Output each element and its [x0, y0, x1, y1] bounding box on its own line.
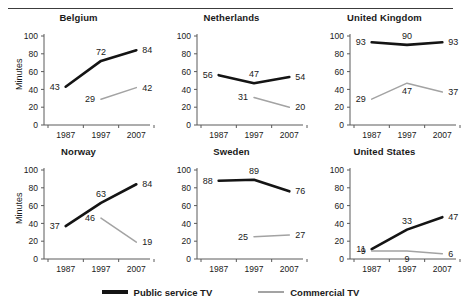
- svg-text:72: 72: [96, 47, 106, 57]
- panel-plot: 0204060801001987199720074372842942: [2, 12, 155, 146]
- svg-text:37: 37: [448, 87, 458, 97]
- svg-text:27: 27: [295, 230, 305, 240]
- svg-text:88: 88: [203, 176, 213, 186]
- svg-text:25: 25: [238, 232, 248, 242]
- svg-text:60: 60: [335, 201, 345, 211]
- svg-text:60: 60: [29, 67, 39, 77]
- svg-text:33: 33: [402, 216, 412, 226]
- chart-legend: Public service TV Commercial TV: [0, 282, 461, 302]
- svg-text:63: 63: [96, 189, 106, 199]
- svg-text:60: 60: [182, 67, 192, 77]
- svg-text:40: 40: [335, 219, 345, 229]
- svg-text:40: 40: [182, 219, 192, 229]
- svg-text:1997: 1997: [245, 130, 264, 140]
- svg-text:100: 100: [177, 31, 191, 41]
- svg-text:100: 100: [330, 31, 344, 41]
- chart-panel-netherlands: Netherlands02040608010019871997200756475…: [155, 12, 308, 146]
- svg-text:93: 93: [448, 37, 458, 47]
- svg-text:40: 40: [29, 219, 39, 229]
- svg-text:9: 9: [361, 246, 366, 256]
- svg-text:80: 80: [335, 49, 345, 59]
- legend-label-public: Public service TV: [134, 287, 213, 298]
- svg-text:0: 0: [339, 120, 344, 130]
- chart-panel-united-states: United States020406080100198719972007113…: [308, 146, 461, 280]
- svg-text:19: 19: [142, 237, 152, 247]
- svg-text:1997: 1997: [398, 130, 417, 140]
- chart-panel-sweden: Sweden0204060801001987199720078889762527: [155, 146, 308, 280]
- svg-text:60: 60: [335, 67, 345, 77]
- svg-text:0: 0: [33, 254, 38, 264]
- svg-text:31: 31: [238, 92, 248, 102]
- svg-text:54: 54: [295, 72, 305, 82]
- svg-text:20: 20: [29, 102, 39, 112]
- svg-text:84: 84: [142, 179, 152, 189]
- svg-text:80: 80: [182, 49, 192, 59]
- panel-plot: 0204060801001987199720073763844619: [2, 146, 155, 280]
- svg-text:56: 56: [203, 70, 213, 80]
- svg-text:0: 0: [33, 120, 38, 130]
- svg-text:46: 46: [85, 213, 95, 223]
- svg-text:2007: 2007: [127, 264, 146, 274]
- legend-item-public: Public service TV: [102, 287, 213, 298]
- svg-text:84: 84: [142, 45, 152, 55]
- svg-text:60: 60: [29, 201, 39, 211]
- svg-text:2007: 2007: [280, 130, 299, 140]
- svg-text:1997: 1997: [92, 130, 111, 140]
- svg-text:40: 40: [335, 85, 345, 95]
- svg-text:20: 20: [295, 102, 305, 112]
- svg-text:20: 20: [182, 236, 192, 246]
- svg-text:43: 43: [50, 82, 60, 92]
- legend-item-commercial: Commercial TV: [258, 287, 359, 298]
- svg-text:37: 37: [50, 221, 60, 231]
- header-divider: [8, 8, 453, 9]
- svg-text:1987: 1987: [56, 264, 75, 274]
- svg-text:47: 47: [448, 212, 458, 222]
- legend-line-public-icon: [102, 290, 128, 293]
- svg-text:100: 100: [24, 31, 38, 41]
- svg-text:2007: 2007: [433, 264, 452, 274]
- svg-text:1997: 1997: [245, 264, 264, 274]
- svg-text:9: 9: [404, 254, 409, 264]
- chart-panel-norway: Norway0204060801001987199720073763844619…: [2, 146, 155, 280]
- svg-text:80: 80: [29, 49, 39, 59]
- svg-text:0: 0: [186, 254, 191, 264]
- svg-text:89: 89: [249, 166, 259, 176]
- svg-text:0: 0: [339, 254, 344, 264]
- svg-text:47: 47: [402, 86, 412, 96]
- legend-line-commercial-icon: [258, 291, 284, 293]
- svg-text:2007: 2007: [433, 130, 452, 140]
- svg-text:60: 60: [182, 201, 192, 211]
- svg-text:100: 100: [330, 165, 344, 175]
- svg-text:100: 100: [24, 165, 38, 175]
- svg-text:40: 40: [182, 85, 192, 95]
- svg-text:20: 20: [182, 102, 192, 112]
- chart-figure: Belgium020406080100198719972007437284294…: [0, 0, 461, 304]
- svg-text:20: 20: [335, 102, 345, 112]
- svg-text:0: 0: [186, 120, 191, 130]
- svg-text:1987: 1987: [56, 130, 75, 140]
- svg-text:90: 90: [402, 31, 412, 41]
- svg-text:29: 29: [356, 94, 366, 104]
- panel-grid: Belgium020406080100198719972007437284294…: [0, 12, 461, 280]
- svg-text:1997: 1997: [398, 264, 417, 274]
- panel-plot: 0204060801001987199720075647543120: [155, 12, 308, 146]
- svg-text:2007: 2007: [280, 264, 299, 274]
- legend-label-commercial: Commercial TV: [290, 287, 359, 298]
- svg-text:100: 100: [177, 165, 191, 175]
- svg-text:80: 80: [182, 183, 192, 193]
- svg-text:47: 47: [249, 69, 259, 79]
- svg-text:93: 93: [356, 37, 366, 47]
- svg-text:20: 20: [29, 236, 39, 246]
- svg-text:1997: 1997: [92, 264, 111, 274]
- svg-text:20: 20: [335, 236, 345, 246]
- svg-text:42: 42: [142, 83, 152, 93]
- svg-text:1987: 1987: [209, 264, 228, 274]
- chart-panel-belgium: Belgium020406080100198719972007437284294…: [2, 12, 155, 146]
- svg-text:80: 80: [29, 183, 39, 193]
- svg-text:1987: 1987: [362, 264, 381, 274]
- svg-text:1987: 1987: [209, 130, 228, 140]
- svg-text:80: 80: [335, 183, 345, 193]
- panel-plot: 020406080100198719972007939093294737: [308, 12, 461, 146]
- svg-text:40: 40: [29, 85, 39, 95]
- svg-text:1987: 1987: [362, 130, 381, 140]
